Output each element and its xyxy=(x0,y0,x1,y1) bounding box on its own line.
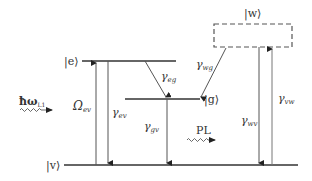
level-w-dashed-box xyxy=(214,24,292,47)
gamma-wg-arrow xyxy=(201,48,226,97)
state-w-label: |w⟩ xyxy=(244,7,261,21)
excitation-label: ħωL1 xyxy=(19,95,45,108)
gamma-gv-label: γgv xyxy=(144,120,159,134)
pl-wavy-arrow-icon xyxy=(187,139,215,142)
pl-label: PL xyxy=(196,124,211,137)
state-e-label: |e⟩ xyxy=(64,55,79,69)
excitation-wavy-arrow-icon xyxy=(20,109,52,112)
gamma-wv-label: γwv xyxy=(241,114,258,128)
energy-level-diagram: |e⟩ |g⟩ |v⟩ |w⟩ Ωev γev γeg γwg γgv γwv … xyxy=(0,0,312,181)
gamma-eg-label: γeg xyxy=(161,70,177,84)
state-v-label: |v⟩ xyxy=(46,159,60,173)
gamma-wg-label: γwg xyxy=(196,58,214,72)
omega-ev-label: Ωev xyxy=(72,99,91,114)
gamma-vw-label: γvw xyxy=(278,92,295,106)
gamma-ev-label: γev xyxy=(112,106,127,120)
state-g-label: |g⟩ xyxy=(204,93,219,107)
